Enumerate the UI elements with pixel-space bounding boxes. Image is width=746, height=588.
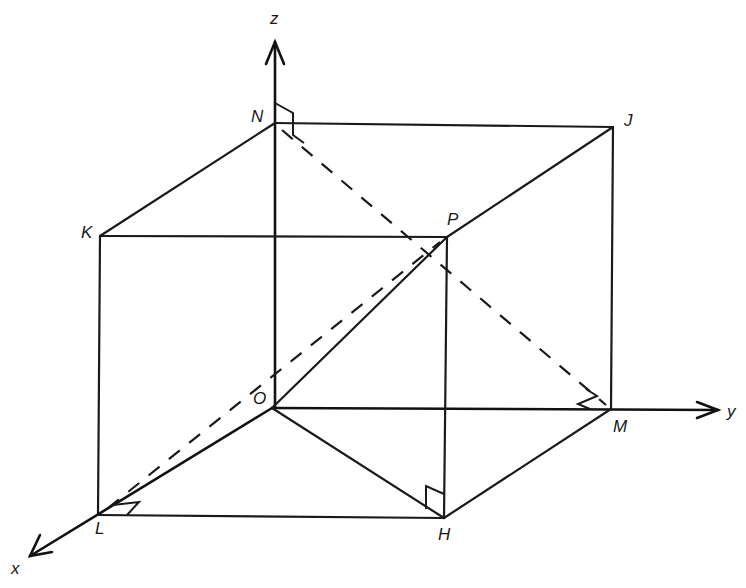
point-H-label: H bbox=[438, 526, 450, 543]
edge-PH bbox=[444, 237, 447, 518]
edge-KL bbox=[98, 236, 100, 515]
edge-HM bbox=[444, 409, 611, 518]
dashed-lines bbox=[108, 130, 606, 508]
point-M-label: M bbox=[613, 418, 627, 435]
edge-LH bbox=[98, 515, 444, 518]
diagonal-OP bbox=[272, 237, 447, 408]
x-axis-label: x bbox=[11, 560, 20, 577]
point-L-label: L bbox=[95, 520, 104, 537]
point-O-label: O bbox=[253, 390, 266, 407]
y-axis bbox=[272, 402, 718, 418]
y-axis-label: y bbox=[727, 403, 736, 420]
right-angle-H-icon bbox=[426, 486, 444, 509]
edge-NJ bbox=[275, 123, 613, 127]
point-N-label: N bbox=[251, 108, 263, 125]
edge-NK bbox=[100, 123, 275, 236]
right-angle-L-icon bbox=[113, 502, 139, 515]
dashed-NM bbox=[282, 130, 606, 405]
point-J-label: J bbox=[624, 112, 633, 129]
edge-JM bbox=[611, 127, 613, 409]
x-axis bbox=[30, 408, 272, 556]
edge-KP bbox=[100, 236, 447, 237]
z-axis-label: z bbox=[270, 10, 279, 27]
edge-OH bbox=[272, 408, 444, 518]
point-K-label: K bbox=[81, 224, 92, 241]
cuboid-edges bbox=[98, 123, 613, 518]
cuboid-diagram bbox=[0, 0, 746, 588]
right-angle-M-icon bbox=[578, 389, 597, 409]
point-P-label: P bbox=[447, 211, 458, 228]
z-axis bbox=[266, 42, 284, 408]
edge-PJ bbox=[447, 127, 613, 237]
